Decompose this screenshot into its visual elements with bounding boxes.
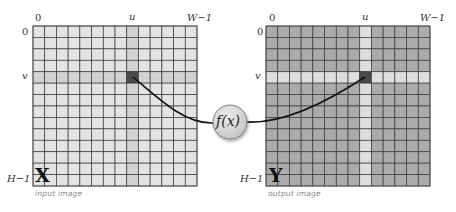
pixel-cell bbox=[395, 175, 407, 186]
pixel-cell bbox=[56, 72, 68, 83]
pixel-cell bbox=[313, 49, 325, 60]
pixel-cell bbox=[33, 60, 45, 71]
pixel-cell bbox=[395, 163, 407, 174]
output-image-caption: output image bbox=[268, 189, 321, 198]
pixel-cell bbox=[103, 83, 115, 94]
pixel-cell bbox=[174, 26, 186, 37]
pixel-cell bbox=[418, 140, 430, 151]
pixel-cell bbox=[92, 152, 104, 163]
pixel-cell bbox=[371, 37, 383, 48]
pixel-cell bbox=[278, 152, 290, 163]
pixel-cell bbox=[383, 140, 395, 151]
pixel-cell bbox=[383, 26, 395, 37]
pixel-cell bbox=[348, 26, 360, 37]
pixel-cell bbox=[395, 83, 407, 94]
pixel-cell bbox=[127, 83, 139, 94]
pixel-cell bbox=[336, 95, 348, 106]
pixel-cell bbox=[301, 83, 313, 94]
pixel-cell bbox=[313, 140, 325, 151]
pixel-cell bbox=[68, 37, 80, 48]
pixel-cell bbox=[348, 117, 360, 128]
output-row-label-h: H−1 bbox=[240, 174, 263, 184]
pixel-cell bbox=[336, 163, 348, 174]
pixel-cell bbox=[266, 83, 278, 94]
pixel-cell bbox=[56, 152, 68, 163]
pixel-cell bbox=[418, 26, 430, 37]
pixel-cell bbox=[138, 152, 150, 163]
pixel-cell bbox=[383, 60, 395, 71]
pixel-cell bbox=[360, 117, 372, 128]
pixel-cell bbox=[45, 152, 57, 163]
pixel-cell bbox=[174, 72, 186, 83]
pixel-cell bbox=[395, 152, 407, 163]
pixel-cell bbox=[68, 95, 80, 106]
pixel-cell bbox=[371, 117, 383, 128]
pixel-cell bbox=[138, 95, 150, 106]
pixel-cell bbox=[115, 60, 127, 71]
pixel-cell bbox=[138, 106, 150, 117]
pixel-cell bbox=[371, 175, 383, 186]
pixel-cell bbox=[325, 26, 337, 37]
pixel-cell bbox=[92, 175, 104, 186]
pixel-cell bbox=[162, 175, 174, 186]
pixel-cell bbox=[56, 117, 68, 128]
pixel-cell bbox=[336, 106, 348, 117]
pixel-cell bbox=[92, 140, 104, 151]
input-image-grid bbox=[33, 26, 197, 186]
pixel-cell bbox=[371, 152, 383, 163]
pixel-cell bbox=[92, 49, 104, 60]
pixel-cell bbox=[418, 117, 430, 128]
pixel-cell bbox=[336, 60, 348, 71]
pixel-cell bbox=[92, 83, 104, 94]
pixel-cell bbox=[56, 140, 68, 151]
pixel-cell bbox=[138, 140, 150, 151]
pixel-cell bbox=[138, 117, 150, 128]
pixel-cell bbox=[313, 83, 325, 94]
pixel-cell bbox=[127, 106, 139, 117]
pixel-cell bbox=[360, 49, 372, 60]
pixel-cell bbox=[45, 95, 57, 106]
output-image-symbol: Y bbox=[269, 166, 283, 185]
pixel-cell bbox=[266, 37, 278, 48]
pixel-cell bbox=[162, 117, 174, 128]
pixel-cell bbox=[278, 140, 290, 151]
pixel-cell bbox=[127, 117, 139, 128]
pixel-cell bbox=[383, 72, 395, 83]
pixel-cell bbox=[80, 106, 92, 117]
pixel-cell bbox=[68, 83, 80, 94]
pixel-cell bbox=[266, 60, 278, 71]
pixel-cell bbox=[162, 140, 174, 151]
pixel-cell bbox=[407, 72, 419, 83]
pixel-cell bbox=[150, 49, 162, 60]
pixel-cell bbox=[33, 72, 45, 83]
pixel-cell bbox=[33, 37, 45, 48]
pixel-cell bbox=[45, 129, 57, 140]
pixel-cell bbox=[127, 60, 139, 71]
pixel-cell bbox=[289, 163, 301, 174]
pixel-cell bbox=[313, 37, 325, 48]
pixel-cell bbox=[266, 152, 278, 163]
pixel-cell bbox=[185, 129, 197, 140]
pixel-cell bbox=[418, 37, 430, 48]
pixel-cell bbox=[418, 129, 430, 140]
pixel-cell bbox=[266, 72, 278, 83]
pixel-cell bbox=[185, 95, 197, 106]
input-image-symbol: X bbox=[35, 166, 50, 185]
pixel-cell bbox=[418, 152, 430, 163]
pixel-cell bbox=[336, 152, 348, 163]
pixel-cell bbox=[92, 129, 104, 140]
pixel-cell bbox=[127, 152, 139, 163]
pixel-cell bbox=[150, 37, 162, 48]
pixel-cell bbox=[150, 152, 162, 163]
pixel-cell bbox=[138, 83, 150, 94]
pixel-cell bbox=[115, 37, 127, 48]
pixel-cell bbox=[407, 106, 419, 117]
pixel-cell bbox=[395, 72, 407, 83]
pixel-cell bbox=[278, 129, 290, 140]
pixel-cell bbox=[395, 49, 407, 60]
pixel-cell bbox=[150, 26, 162, 37]
output-col-label-w: W−1 bbox=[420, 13, 445, 23]
input-image-caption: input image bbox=[35, 189, 82, 198]
pixel-cell bbox=[348, 129, 360, 140]
pixel-cell bbox=[418, 72, 430, 83]
